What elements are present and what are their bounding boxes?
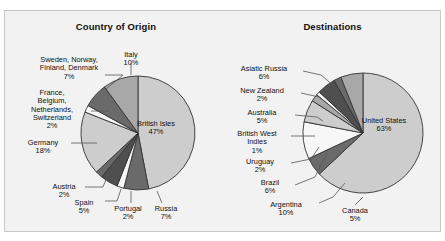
pie-label-russia: Russia7% bbox=[145, 205, 187, 222]
pie-label-new-zealand: New Zealand2% bbox=[225, 87, 299, 104]
pie-label-uruguay: Uruguay2% bbox=[231, 158, 289, 175]
pie-label-united-states: United States63% bbox=[349, 117, 419, 134]
pie-label-italy: Italy10% bbox=[113, 51, 149, 68]
leader-line-russia bbox=[157, 191, 162, 203]
chart-country-of-origin: Country of Origin Sweden, Norway,Finland… bbox=[5, 11, 227, 233]
figure-root: Country of Origin Sweden, Norway,Finland… bbox=[0, 0, 445, 241]
chart-destinations: Destinations Asiatic Russia6% New Zealan… bbox=[223, 11, 442, 233]
pie-label-australia: Australia5% bbox=[231, 109, 293, 126]
pie-label-asiatic-russia: Asiatic Russia6% bbox=[225, 65, 303, 82]
pie-label-germany: Germany18% bbox=[15, 139, 71, 156]
pie-label-france-belgium-netherlands-switzerland: France,Belgium,Netherlands,Switzerland2% bbox=[13, 89, 91, 130]
leader-line-spain bbox=[105, 189, 121, 201]
pie-label-brazil: Brazil6% bbox=[247, 179, 293, 196]
pie-label-argentina: Argentina10% bbox=[255, 201, 317, 218]
pie-label-canada: Canada5% bbox=[331, 207, 379, 224]
figure-panel: Country of Origin Sweden, Norway,Finland… bbox=[4, 10, 441, 232]
leader-line-canada bbox=[355, 197, 363, 205]
pie-label-sweden-norway-finland-denmark: Sweden, Norway,Finland, Denmark7% bbox=[21, 56, 117, 81]
pie-label-spain: Spain5% bbox=[63, 199, 105, 216]
pie-label-british-isles: British Isles47% bbox=[125, 120, 187, 137]
leader-line-asiatic-russia bbox=[303, 71, 333, 85]
pie-label-british-west-indies: British WestIndies1% bbox=[225, 130, 289, 155]
